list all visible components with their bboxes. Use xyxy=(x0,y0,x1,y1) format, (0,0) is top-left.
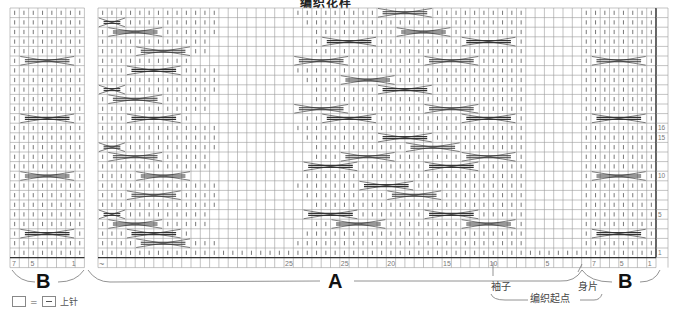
row-number: 1 xyxy=(658,249,662,256)
number-label: 5 xyxy=(31,260,35,267)
legend-equals: = xyxy=(30,297,38,307)
section-label-b-left: B xyxy=(36,270,50,293)
legend-label: 上针 xyxy=(60,295,78,308)
column-number: 10 xyxy=(490,260,498,267)
legend: = 上针 xyxy=(12,295,78,308)
chart-grid: 7512525201510575116151051~ xyxy=(0,0,678,310)
column-number: 15 xyxy=(443,260,451,267)
row-number: 16 xyxy=(658,124,666,131)
section-label-b-right: B xyxy=(618,270,632,293)
tilde-mark: ~ xyxy=(99,259,104,269)
column-number: 20 xyxy=(387,260,395,267)
column-number: 5 xyxy=(620,260,624,267)
number-label: 7 xyxy=(12,260,16,267)
purl-symbol xyxy=(42,296,56,307)
body-label: 身片 xyxy=(578,278,598,293)
section-label-a: A xyxy=(328,270,342,293)
row-number: 15 xyxy=(658,134,666,141)
number-label: 1 xyxy=(72,260,76,267)
column-number: 25 xyxy=(285,260,293,267)
knitting-chart: 编织花样 7512525201510575116151051~ B A B 袖子… xyxy=(0,0,678,310)
row-number: 10 xyxy=(658,172,666,179)
blank-cell-symbol xyxy=(12,296,26,307)
start-point-label: 编织起点 xyxy=(530,290,570,305)
row-number: 5 xyxy=(658,211,662,218)
sleeve-label: 袖子 xyxy=(491,278,511,293)
column-number: 1 xyxy=(648,260,652,267)
column-number: 5 xyxy=(545,260,549,267)
column-number: 7 xyxy=(592,260,596,267)
column-number: 25 xyxy=(341,260,349,267)
